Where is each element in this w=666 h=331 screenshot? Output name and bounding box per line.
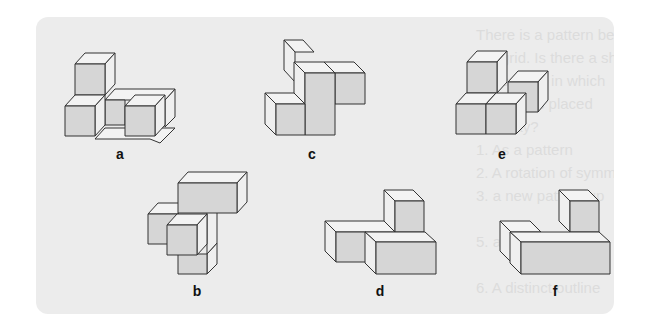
figure-label-f: f: [545, 283, 565, 299]
figure-f: [500, 190, 610, 274]
cube-figures: .fr{fill:#d6d6d6;stroke:#333;stroke-widt…: [0, 0, 666, 331]
figure-label-d: d: [370, 283, 390, 299]
figure-label-c: c: [302, 146, 322, 162]
figure-e: [456, 51, 548, 134]
figure-d: [325, 190, 436, 274]
figure-label-a: a: [110, 146, 130, 162]
figure-label-b: b: [187, 283, 207, 299]
figure-c: [265, 40, 365, 135]
figure-a: [65, 53, 175, 143]
figure-label-e: e: [492, 146, 512, 162]
figure-b: [148, 172, 247, 274]
